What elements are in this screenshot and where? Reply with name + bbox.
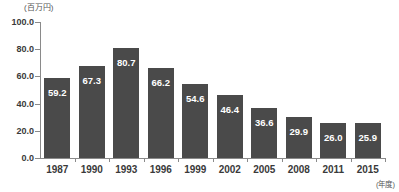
bar: 67.3: [79, 66, 105, 158]
bar: 25.9: [355, 123, 381, 158]
x-axis-tick: [213, 158, 214, 162]
x-axis-tick: [75, 158, 76, 162]
x-axis-tick: [247, 158, 248, 162]
y-axis-tick-label: 20.0: [0, 126, 34, 136]
x-axis-tick: [282, 158, 283, 162]
y-axis-tick-label: 0.0: [0, 153, 34, 163]
bar: 26.0: [320, 123, 346, 158]
x-axis-tick: [351, 158, 352, 162]
x-axis-tick: [109, 158, 110, 162]
bar: 66.2: [148, 68, 174, 158]
bar: 54.6: [182, 84, 208, 158]
bar-value-label: 66.2: [148, 77, 174, 88]
x-axis-note-label: (年度): [376, 178, 395, 189]
bar-value-label: 80.7: [113, 57, 139, 68]
bar-value-label: 25.9: [355, 132, 381, 143]
bar-value-label: 54.6: [182, 93, 208, 104]
x-axis-tick: [144, 158, 145, 162]
x-axis-tick: [178, 158, 179, 162]
x-axis-tick: [385, 158, 386, 162]
bar: 80.7: [113, 48, 139, 158]
bar-value-label: 59.2: [44, 87, 70, 98]
x-axis-category-label: 2015: [348, 164, 388, 175]
x-axis-tick: [316, 158, 317, 162]
bar-chart: (百万円) 0.020.040.060.080.0100.0 59.267.38…: [0, 0, 399, 192]
bar-value-label: 67.3: [79, 75, 105, 86]
y-axis-tick-label: 100.0: [0, 17, 34, 27]
bar: 36.6: [251, 108, 277, 158]
bar-value-label: 36.6: [251, 117, 277, 128]
bar: 59.2: [44, 78, 70, 159]
bar-value-label: 46.4: [217, 104, 243, 115]
bar: 46.4: [217, 95, 243, 158]
bar-value-label: 26.0: [320, 132, 346, 143]
plot-area: 59.267.380.766.254.646.436.629.926.025.9: [40, 22, 385, 158]
y-axis-unit-label: (百万円): [24, 1, 53, 12]
bar-value-label: 29.9: [286, 126, 312, 137]
y-axis-tick-label: 80.0: [0, 44, 34, 54]
y-axis-tick-label: 60.0: [0, 71, 34, 81]
bar: 29.9: [286, 117, 312, 158]
y-axis-tick-label: 40.0: [0, 99, 34, 109]
